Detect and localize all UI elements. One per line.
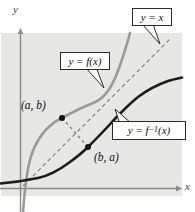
- callout-y-equals-f-label: y = f(x): [68, 56, 101, 67]
- x-axis-label: x: [185, 180, 190, 192]
- inverse-function-figure: y = x y = f(x) y = f−1(x) (a, b) (b, a) …: [0, 0, 195, 212]
- callout-y-equals-x-label: y = x: [141, 12, 164, 23]
- point-a-b-dot: [59, 115, 65, 121]
- callout-f-inverse-pre: y = f: [128, 125, 149, 136]
- y-axis-label: y: [13, 3, 18, 15]
- point-b-a-label: (b, a): [94, 151, 119, 163]
- point-b-a-dot: [85, 144, 91, 150]
- y-axis-arrow-icon: [18, 28, 24, 34]
- callout-y-equals-x: y = x: [132, 8, 172, 26]
- point-a-b-label: (a, b): [21, 99, 46, 111]
- callout-f-inverse-post: (x): [158, 125, 170, 136]
- callout-y-equals-f: y = f(x): [60, 52, 110, 70]
- callout-y-equals-f-inverse: y = f−1(x): [112, 121, 186, 140]
